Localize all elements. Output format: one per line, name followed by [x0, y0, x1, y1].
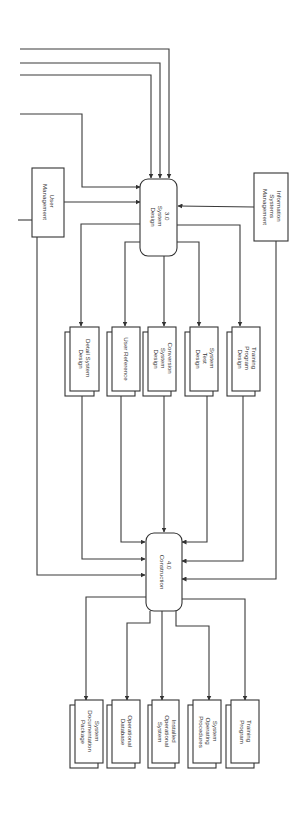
doc-system-operating-procedures[interactable]: System Operating Procedures [188, 700, 221, 768]
data-flow-diagram: User Management 3.0 System Design Inform… [0, 0, 304, 816]
process-3-system-design[interactable]: 3.0 System Design [140, 179, 177, 256]
user-management-entity[interactable]: User Management [32, 168, 64, 237]
doc-system-documentation-package[interactable]: System Documentation Package [70, 700, 103, 768]
svg-text:Training Program: Training Program Design [237, 346, 258, 371]
information-systems-management-entity[interactable]: Information Systems Management [254, 173, 288, 241]
doc-training-program-design[interactable]: Training Program Design [227, 327, 260, 396]
doc-conversion-system-design[interactable]: Conversion System Design [143, 327, 176, 396]
design-outputs: Detail System Design User Reference Conv… [65, 327, 260, 396]
svg-text:System Operating: System Operating Procedures [198, 716, 219, 748]
doc-system-test-design[interactable]: System Test Design [185, 327, 218, 396]
doc-training-program[interactable]: Training Program [226, 700, 259, 768]
svg-text:User Reference: User Reference [123, 337, 130, 381]
doc-installed-operational-system[interactable]: Installed Operational System [148, 700, 179, 768]
process-4-construction[interactable]: 4.0 Construction [146, 533, 182, 611]
construction-output-flows [86, 597, 245, 700]
construction-outputs: System Documentation Package Operational… [70, 700, 259, 768]
svg-text:Operational Database: Operational Database [120, 715, 134, 749]
incoming-flows [20, 49, 169, 187]
is-mgmt-to-design-flow [178, 206, 254, 207]
svg-text:Training Program: Training Program [239, 720, 253, 744]
doc-operational-database[interactable]: Operational Database [107, 700, 140, 768]
doc-detail-system-design[interactable]: Detail System Design [65, 327, 99, 396]
doc-user-reference[interactable]: User Reference [107, 327, 140, 396]
